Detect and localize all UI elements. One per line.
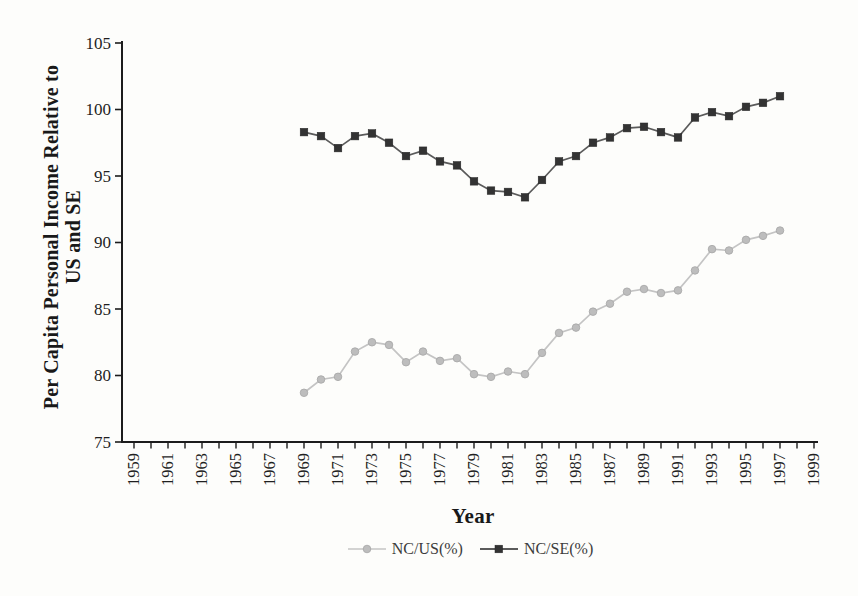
x-tick-label: 1963 — [192, 453, 211, 486]
x-axis-ticks: 1959196119631965196719691971197319751977… — [124, 442, 823, 486]
x-tick-label: 1979 — [464, 453, 483, 486]
nc-us-data-point — [691, 267, 699, 275]
nc-us-data-point — [368, 338, 376, 346]
nc-us-data-point — [504, 368, 512, 376]
nc-se-data-point — [640, 123, 648, 131]
nc-se-data-point — [555, 158, 563, 166]
nc-us-data-point — [470, 370, 478, 378]
nc-se-data-point — [776, 92, 784, 100]
x-tick-label: 1973 — [362, 453, 381, 486]
series-nc-us — [300, 227, 784, 397]
nc-se-data-point — [504, 188, 512, 196]
y-tick-label: 90 — [94, 233, 111, 252]
nc-us-data-point — [572, 324, 580, 332]
x-tick-label: 1987 — [600, 453, 619, 486]
nc-se-data-point — [589, 139, 597, 147]
legend-item-nc-se: NC/SE(%) — [479, 540, 593, 558]
nc-se-data-point — [368, 130, 376, 138]
legend-label-nc-us: NC/US(%) — [392, 540, 463, 558]
x-tick-label: 1985 — [566, 453, 585, 486]
nc-se-data-point — [453, 162, 461, 170]
nc-se-data-point — [742, 103, 750, 111]
income-chart-figure: 7580859095100105195919611963196519671969… — [0, 0, 858, 596]
nc-se-data-point — [623, 124, 631, 132]
y-tick-label: 80 — [94, 366, 111, 385]
nc-us-data-point — [487, 373, 495, 381]
nc-se-data-point — [538, 176, 546, 184]
x-tick-label: 1981 — [498, 453, 517, 486]
x-tick-label: 1977 — [430, 453, 449, 486]
nc-se-data-point — [402, 152, 410, 160]
x-tick-label: 1965 — [226, 453, 245, 486]
nc-se-line-square-icon — [479, 542, 519, 556]
legend: NC/US(%) NC/SE(%) — [122, 540, 818, 558]
nc-us-data-point — [776, 227, 784, 235]
nc-us-data-point — [725, 247, 733, 255]
y-tick-label: 85 — [94, 300, 111, 319]
nc-us-data-point — [436, 357, 444, 365]
y-tick-label: 95 — [94, 167, 111, 186]
nc-se-data-point — [385, 139, 393, 147]
nc-us-data-point — [555, 329, 563, 337]
nc-se-data-point — [334, 144, 342, 152]
nc-se-data-point — [606, 134, 614, 142]
nc-se-data-point — [657, 128, 665, 136]
x-tick-label: 1983 — [532, 453, 551, 486]
nc-us-data-point — [708, 245, 716, 253]
nc-se-data-point — [436, 158, 444, 166]
x-tick-label: 1997 — [770, 453, 789, 486]
y-axis-title-line2: US and SE — [62, 65, 84, 409]
x-tick-label: 1969 — [294, 453, 313, 486]
axes — [122, 41, 818, 442]
plot-area: 7580859095100105195919611963196519671969… — [0, 0, 858, 596]
nc-se-data-point — [487, 187, 495, 195]
nc-us-data-point — [589, 308, 597, 316]
x-tick-label: 1993 — [702, 453, 721, 486]
legend-label-nc-se: NC/SE(%) — [524, 540, 593, 558]
nc-se-data-point — [572, 152, 580, 160]
nc-us-data-point — [640, 285, 648, 293]
nc-us-data-point — [759, 232, 767, 240]
y-axis-title: Per Capita Personal Income Relative to U… — [40, 65, 85, 409]
x-tick-label: 1989 — [634, 453, 653, 486]
nc-se-data-point — [674, 134, 682, 142]
nc-us-data-point — [300, 389, 308, 397]
nc-us-data-point — [623, 288, 631, 296]
nc-se-data-point — [419, 147, 427, 155]
x-axis-title: Year — [451, 504, 494, 529]
x-tick-label: 1991 — [668, 453, 687, 486]
x-tick-label: 1999 — [804, 453, 823, 486]
nc-us-data-point — [674, 287, 682, 295]
nc-se-data-point — [300, 128, 308, 136]
nc-us-data-point — [606, 300, 614, 308]
nc-se-data-point — [351, 132, 359, 140]
x-tick-label: 1995 — [736, 453, 755, 486]
nc-se-data-point — [317, 132, 325, 140]
y-tick-label: 75 — [94, 433, 111, 452]
x-tick-label: 1961 — [158, 453, 177, 486]
x-tick-label: 1967 — [260, 453, 279, 486]
nc-us-line-dot-icon — [347, 542, 387, 556]
legend-item-nc-us: NC/US(%) — [347, 540, 463, 558]
x-tick-label: 1971 — [328, 453, 347, 486]
nc-us-data-point — [657, 289, 665, 297]
nc-us-data-point — [402, 358, 410, 366]
x-tick-label: 1959 — [124, 453, 143, 486]
nc-se-data-point — [470, 178, 478, 186]
nc-us-data-point — [351, 348, 359, 356]
nc-us-data-point — [385, 341, 393, 349]
y-tick-label: 100 — [86, 100, 112, 119]
nc-us-data-point — [419, 348, 427, 356]
nc-se-data-point — [759, 99, 767, 107]
series-nc-se — [300, 92, 784, 201]
nc-se-data-point — [725, 112, 733, 120]
y-axis-title-line1: Per Capita Personal Income Relative to — [40, 65, 62, 409]
nc-us-data-point — [453, 354, 461, 362]
nc-se-data-point — [521, 193, 529, 201]
y-tick-label: 105 — [86, 34, 112, 53]
nc-us-data-point — [317, 376, 325, 384]
nc-us-data-point — [521, 370, 529, 378]
x-tick-label: 1975 — [396, 453, 415, 486]
nc-us-data-point — [538, 349, 546, 357]
y-axis-ticks: 7580859095100105 — [86, 34, 123, 452]
